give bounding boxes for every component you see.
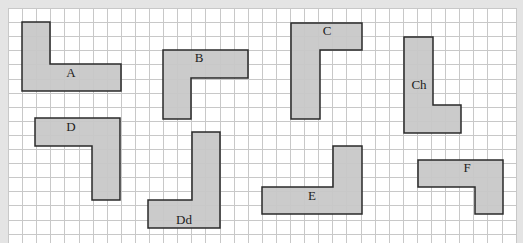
grid-diagram: ABCChDDdEF <box>0 0 523 243</box>
shape-label: F <box>463 160 470 175</box>
grid-svg: ABCChDDdEF <box>0 0 523 243</box>
shape-label: Ch <box>411 77 427 92</box>
shape-label: C <box>323 23 332 38</box>
shape-label: D <box>66 119 75 134</box>
shape-label: E <box>308 188 316 203</box>
shape-label: Dd <box>176 212 192 227</box>
shape-label: A <box>66 65 76 80</box>
shape-label: B <box>195 50 204 65</box>
